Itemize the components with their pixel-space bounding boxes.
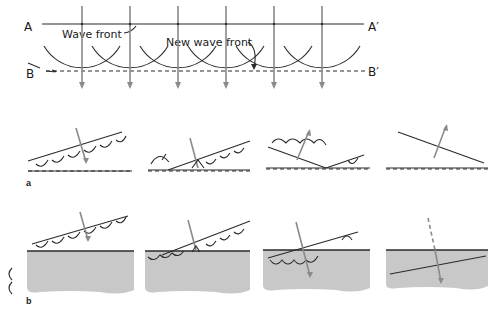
incident-wave-front xyxy=(168,141,250,170)
ray-arrowhead xyxy=(175,82,181,89)
reflection-panel-3 xyxy=(266,129,370,169)
row-b-refraction: b xyxy=(26,212,488,306)
ray-arrowhead xyxy=(223,82,229,89)
reflection-panel-1: a xyxy=(26,128,132,188)
refraction-panel-3 xyxy=(263,222,370,292)
medium-block xyxy=(263,250,370,292)
wavelet-arcs xyxy=(272,139,326,145)
incident-wave-front xyxy=(32,216,128,244)
reflection-panel-4 xyxy=(386,124,488,169)
reflected-wave-front xyxy=(398,132,484,163)
reflected-wave-front xyxy=(326,155,364,168)
wavelets-group xyxy=(44,46,360,72)
medium-block xyxy=(386,250,488,290)
wavelet-source-point xyxy=(177,23,179,25)
medium-block xyxy=(145,251,250,294)
row-a-reflection: a xyxy=(26,124,488,188)
wavelet-arcs xyxy=(206,229,244,246)
envelope-stub xyxy=(46,70,56,72)
refraction-panel-2 xyxy=(145,220,250,294)
reflected-ray xyxy=(297,131,309,160)
wavelet-source-point xyxy=(321,23,323,25)
incident-ray xyxy=(188,220,196,250)
label-a: A xyxy=(24,20,33,34)
cropped-wavelet-fragment xyxy=(9,268,12,294)
wavelet-source-point xyxy=(225,23,227,25)
incident-ray xyxy=(190,138,198,168)
new-wave-front-label: New wave front xyxy=(166,36,253,49)
incident-ray xyxy=(76,128,86,162)
top-wavefront-panel: A A′ Wave front New wave front B B′ xyxy=(24,6,379,89)
wavelet-source-point xyxy=(129,23,131,25)
row-b-label: b xyxy=(26,296,32,306)
refraction-panel-4 xyxy=(386,218,488,290)
wavelet-source-point xyxy=(81,23,83,25)
ray-arrowhead xyxy=(83,158,89,164)
ray-arrowhead xyxy=(85,236,91,242)
wavelet-arcs xyxy=(36,136,126,166)
refraction-panel-1: b xyxy=(26,212,134,306)
wave-front-label: Wave front xyxy=(62,28,123,41)
reflected-wavelet xyxy=(151,156,169,164)
row-a-label: a xyxy=(26,178,32,188)
ray-arrowhead xyxy=(306,129,311,136)
label-a-prime: A′ xyxy=(368,20,379,34)
huygens-wave-diagram: A A′ Wave front New wave front B B′ a xyxy=(0,0,498,310)
ray-arrowhead xyxy=(79,82,85,89)
label-b-prime: B′ xyxy=(368,65,379,79)
reflected-ray xyxy=(434,126,446,158)
label-b: B xyxy=(26,67,34,81)
incident-ray xyxy=(80,212,88,240)
incident-ray-dashed xyxy=(428,218,435,250)
ray-arrowhead xyxy=(443,124,448,131)
new-wave-front-arrowhead xyxy=(251,64,257,70)
reflection-panel-2 xyxy=(148,138,250,171)
ray-arrowhead xyxy=(127,82,133,89)
ray-arrowhead xyxy=(271,82,277,89)
incident-wave-front xyxy=(268,147,326,168)
ray-arrowhead xyxy=(319,82,325,89)
medium-block xyxy=(27,251,134,294)
wavelet-arcs xyxy=(36,217,126,247)
wavelet-source-point xyxy=(273,23,275,25)
incident-wave-front xyxy=(162,221,250,255)
